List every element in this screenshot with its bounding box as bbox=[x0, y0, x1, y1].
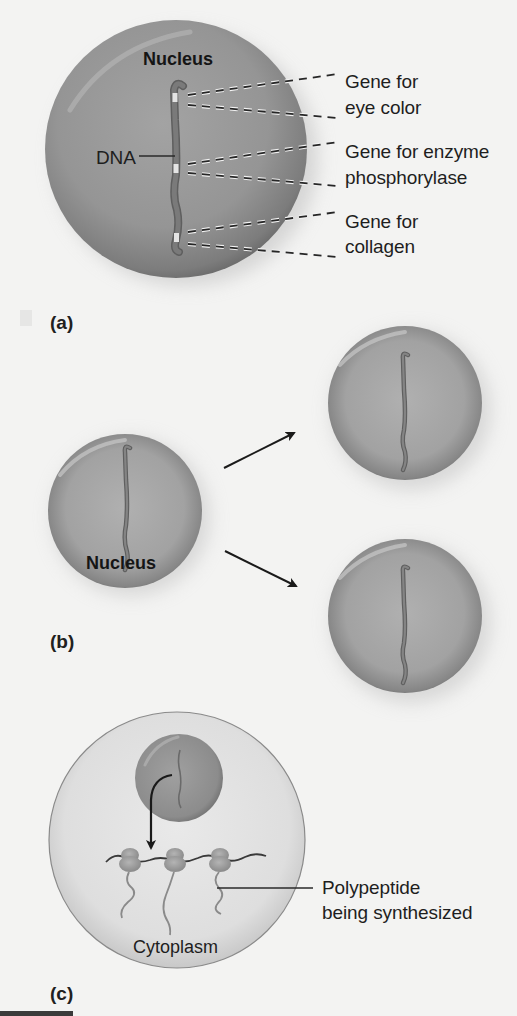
panel-c bbox=[49, 712, 313, 968]
panel-b bbox=[48, 326, 491, 703]
gene-label-eye-color-line1: Gene for bbox=[345, 72, 418, 91]
polypeptide-label-line1: Polypeptide bbox=[322, 878, 420, 897]
gene-segment-phosphorylase bbox=[174, 164, 179, 173]
gene-segment-eye-color bbox=[173, 93, 178, 102]
panel-label-a: (a) bbox=[50, 313, 73, 332]
nucleus-in-cell bbox=[135, 734, 223, 822]
division-arrow-up bbox=[224, 433, 294, 468]
gene-label-phosphorylase-line1: Gene for enzyme bbox=[345, 142, 489, 161]
nucleus-label-b: Nucleus bbox=[86, 554, 156, 572]
page-edge-bar bbox=[0, 1011, 73, 1016]
gene-label-phosphorylase-line2: phosphorylase bbox=[345, 168, 467, 187]
scan-artifact bbox=[20, 310, 32, 326]
ribosomes bbox=[119, 848, 231, 872]
polypeptide-label-line2: being synthesized bbox=[322, 903, 472, 922]
diagram-canvas: Nucleus DNA Gene for eye color Gene for … bbox=[0, 0, 517, 1016]
dna-label: DNA bbox=[96, 148, 136, 167]
nucleus-label-a: Nucleus bbox=[143, 50, 213, 68]
gene-label-eye-color-line2: eye color bbox=[345, 98, 421, 117]
panel-label-c: (c) bbox=[50, 984, 73, 1003]
division-arrow-down bbox=[225, 551, 296, 586]
gene-segment-collagen bbox=[174, 233, 179, 242]
cytoplasm-label: Cytoplasm bbox=[133, 938, 218, 956]
panel-label-b: (b) bbox=[50, 632, 74, 651]
gene-label-collagen-line2: collagen bbox=[345, 237, 415, 256]
gene-label-collagen-line1: Gene for bbox=[345, 212, 418, 231]
